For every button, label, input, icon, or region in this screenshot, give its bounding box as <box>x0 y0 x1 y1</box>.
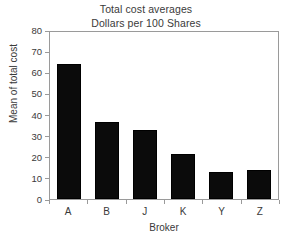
x-axis-tick-mark <box>126 200 127 204</box>
bar-slot <box>202 32 240 199</box>
bar-j[interactable] <box>133 130 157 199</box>
x-axis-label-a: A <box>49 205 87 219</box>
x-axis-title: Broker <box>49 222 279 233</box>
bar-chart: Total cost averages Dollars per 100 Shar… <box>0 0 292 242</box>
plot-area <box>49 31 279 200</box>
y-axis-tick-label: 80 <box>31 25 42 36</box>
bar-slot <box>164 32 202 199</box>
x-axis-label-j: J <box>126 205 164 219</box>
y-axis-tick-label: 50 <box>31 88 42 99</box>
x-axis-label-z: Z <box>241 205 279 219</box>
chart-subtitle: Dollars per 100 Shares <box>0 17 292 30</box>
y-axis-tick-label: 40 <box>31 110 42 121</box>
bar-y[interactable] <box>209 172 233 199</box>
bar-a[interactable] <box>57 64 81 199</box>
chart-title: Total cost averages <box>0 3 292 16</box>
x-axis-tick-mark <box>279 200 280 204</box>
x-axis-tick-mark <box>241 200 242 204</box>
bar-slot <box>88 32 126 199</box>
y-axis-title: Mean of total cost <box>8 24 19 144</box>
y-axis-tick-label: 0 <box>37 194 42 205</box>
x-axis-labels: ABJKYZ <box>49 205 279 219</box>
chart-title-block: Total cost averages Dollars per 100 Shar… <box>0 3 292 30</box>
x-axis-tick-mark <box>164 200 165 204</box>
y-axis-tick-label: 20 <box>31 152 42 163</box>
x-axis-label-k: K <box>164 205 202 219</box>
bar-slot <box>50 32 88 199</box>
x-axis-label-b: B <box>87 205 125 219</box>
x-axis-tick-mark <box>202 200 203 204</box>
x-axis-tick-mark <box>49 200 50 204</box>
y-axis-tick-label: 70 <box>31 46 42 57</box>
x-axis-label-y: Y <box>202 205 240 219</box>
plot-inner <box>50 32 278 199</box>
bar-slot <box>240 32 278 199</box>
bar-slot <box>126 32 164 199</box>
bars-layer <box>50 32 278 199</box>
y-axis-tick-label: 60 <box>31 67 42 78</box>
y-axis-tick-label: 30 <box>31 131 42 142</box>
bar-z[interactable] <box>247 170 271 199</box>
bar-k[interactable] <box>171 154 195 199</box>
bar-b[interactable] <box>95 122 119 199</box>
y-axis-tick-label: 10 <box>31 173 42 184</box>
x-axis-tick-mark <box>87 200 88 204</box>
